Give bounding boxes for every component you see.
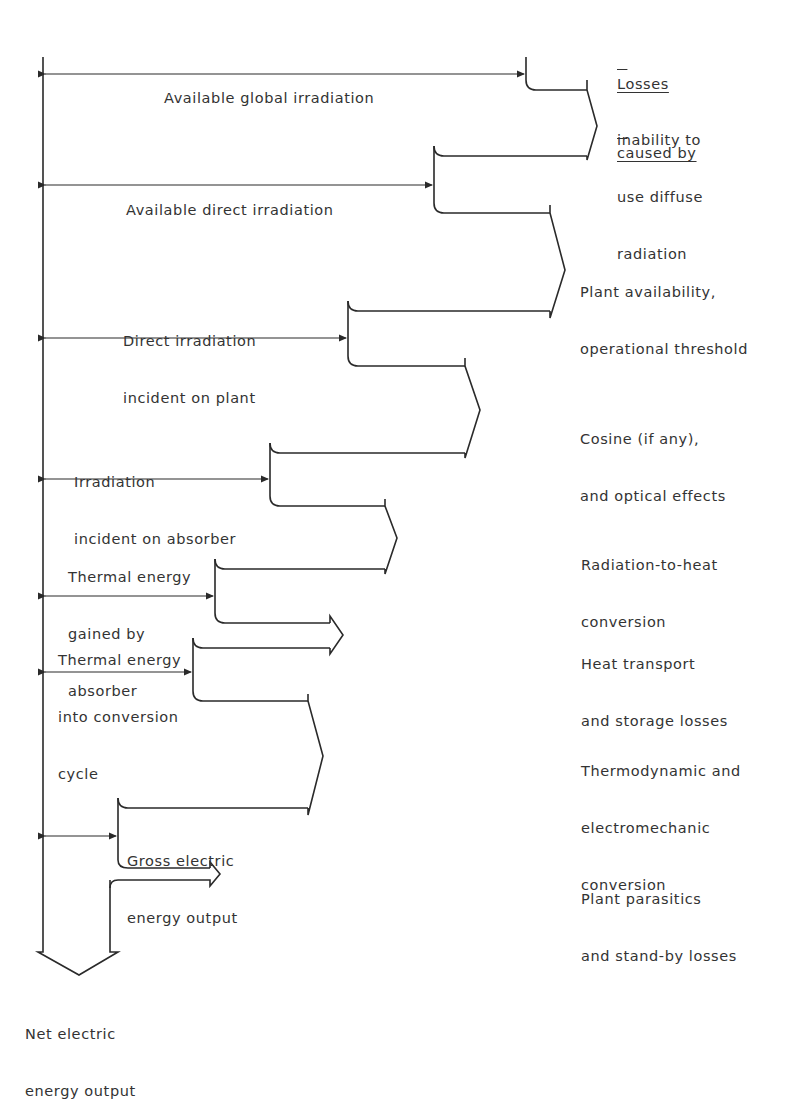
stage-label-plant: Direct irradiation incident on plant [123,294,256,427]
loss-branch-transport [330,616,343,654]
loss-branch-optical [465,358,480,458]
stage-label-net: Net electric energy output [25,987,136,1103]
loss-label-parasitics: Plant parasitics and stand-by losses [581,852,737,985]
stage-bracket-direct [434,146,587,213]
loss-branch-rad-heat [385,499,397,574]
stage-bracket-absorber [270,443,465,506]
loss-label-optical: Cosine (if any), and optical effects [580,392,726,525]
loss-branch-diffuse [526,57,597,160]
loss-label-availability: Plant availability, operational threshol… [580,245,748,378]
stage-bracket-plant [348,301,550,366]
stage-bracket-thermal-gained [215,559,385,623]
stage-bracket-thermal-cycle [193,638,330,701]
loss-branch-thermo [308,694,323,815]
stage-label-thermal-cycle: Thermal energy into conversion cycle [58,613,181,803]
stage-label-global: Available global irradiation [164,51,374,127]
stage-label-gross: Gross electric energy output [127,814,238,947]
stage-label-direct: Available direct irradiation [126,163,334,239]
loss-branch-availability [550,205,565,318]
